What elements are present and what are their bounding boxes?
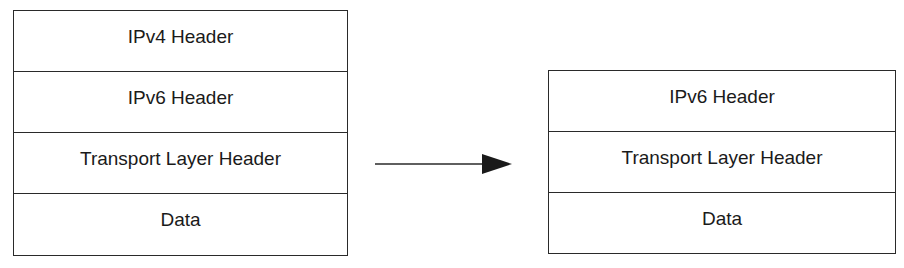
layer-transport-header: Transport Layer Header xyxy=(14,133,347,194)
layer-ipv6-header: IPv6 Header xyxy=(14,72,347,133)
layer-data: Data xyxy=(549,193,895,252)
packet-after-stack: IPv6 Header Transport Layer Header Data xyxy=(548,70,896,254)
layer-ipv6-header: IPv6 Header xyxy=(549,71,895,132)
layer-ipv4-header: IPv4 Header xyxy=(14,11,347,72)
layer-transport-header: Transport Layer Header xyxy=(549,132,895,193)
layer-data: Data xyxy=(14,194,347,254)
right-arrow-icon xyxy=(370,150,520,180)
packet-before-stack: IPv4 Header IPv6 Header Transport Layer … xyxy=(13,10,348,256)
